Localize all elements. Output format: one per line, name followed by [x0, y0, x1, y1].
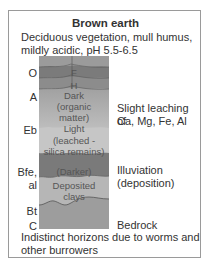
horizon-label-bt: Bt	[13, 205, 37, 217]
diagram-frame: Brown earth Deciduous vegetation, mull h…	[8, 10, 201, 258]
footer-note: Indistinct horizons due to worms and oth…	[21, 231, 201, 257]
horizon-label-o: O	[13, 67, 37, 79]
eb-text-2: (leached -	[39, 135, 109, 146]
horizon-label-bfe: Bfe,	[13, 166, 37, 178]
horizon-label-al: al	[13, 179, 37, 191]
a-text-2: (organic	[39, 101, 109, 112]
description: Deciduous vegetation, mull humus, mildly…	[21, 31, 201, 57]
soil-profile-column: F H Dark (organic matter) Light (leached…	[39, 56, 109, 229]
eb-text-1: Light	[39, 123, 109, 134]
a-text-1: Dark	[39, 90, 109, 101]
horizon-label-eb: Eb	[13, 124, 37, 136]
horizon-label-a: A	[13, 91, 37, 103]
a-text-3: matter)	[39, 112, 109, 123]
bt-text-2: clays	[39, 191, 109, 202]
diagram-title: Brown earth	[9, 17, 202, 29]
bt-text-1: Deposited	[39, 180, 109, 191]
eb-text-3: silica remains)	[39, 146, 109, 157]
note-illuviation-1: Illuviation	[117, 164, 163, 177]
note-illuviation-2: (deposition)	[117, 177, 174, 190]
bfe-text: (Darker)	[39, 166, 109, 177]
note-leaching-2: Ca, Mg, Fe, Al	[117, 115, 187, 128]
f-layer-label: F	[39, 67, 109, 78]
